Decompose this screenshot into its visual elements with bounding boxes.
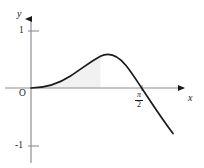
fraction-denominator-two: 2	[136, 101, 142, 109]
sine-curve-path	[31, 54, 173, 133]
y-tick-label-negative-one: -1	[15, 141, 23, 151]
sine-curve-figure: y x 1 -1 O π 2	[0, 0, 204, 168]
origin-label: O	[19, 89, 26, 99]
fraction-numerator-pi: π	[136, 91, 142, 99]
y-axis-label: y	[17, 9, 21, 19]
x-tick-label-pi-over-2: π 2	[135, 91, 143, 109]
x-axis-label: x	[188, 93, 192, 103]
shaded-region-under-curve	[31, 56, 100, 88]
y-tick-label-one: 1	[19, 26, 24, 36]
plot-canvas	[0, 0, 204, 168]
